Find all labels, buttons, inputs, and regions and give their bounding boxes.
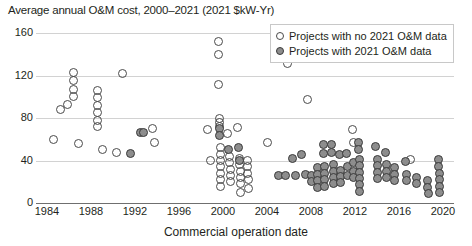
data-point-series-1 bbox=[297, 150, 306, 159]
data-point-series-1 bbox=[319, 149, 328, 158]
data-point-series-0 bbox=[214, 80, 223, 89]
data-point-series-1 bbox=[235, 156, 244, 165]
x-tick-label-1992: 1992 bbox=[113, 205, 157, 217]
y-tick-label-160: 160 bbox=[3, 27, 33, 38]
data-point-series-1 bbox=[234, 143, 243, 152]
data-point-series-0 bbox=[203, 125, 212, 134]
y-tick-label-40: 40 bbox=[3, 155, 33, 166]
data-point-series-0 bbox=[244, 175, 253, 184]
data-point-series-1 bbox=[319, 140, 328, 149]
data-point-series-0 bbox=[216, 182, 225, 191]
data-point-series-1 bbox=[320, 182, 329, 191]
x-tick-label-2004: 2004 bbox=[245, 205, 289, 217]
chart-legend: Projects with no 2021 O&M dataProjects w… bbox=[270, 24, 454, 63]
data-point-series-1 bbox=[402, 176, 411, 185]
data-point-series-0 bbox=[112, 148, 121, 157]
x-tick-label-2008: 2008 bbox=[289, 205, 333, 217]
gridline-y-120 bbox=[36, 76, 454, 77]
data-point-series-0 bbox=[63, 100, 72, 109]
x-tick-label-1988: 1988 bbox=[69, 205, 113, 217]
legend-marker-icon bbox=[276, 32, 284, 40]
data-point-series-0 bbox=[93, 122, 102, 131]
data-point-series-1 bbox=[354, 145, 363, 154]
data-point-series-0 bbox=[98, 145, 107, 154]
data-point-series-0 bbox=[214, 37, 223, 46]
x-tick-label-2016: 2016 bbox=[377, 205, 421, 217]
data-point-series-0 bbox=[150, 138, 159, 147]
x-tick-label-2012: 2012 bbox=[333, 205, 377, 217]
x-axis-label: Commercial operation date bbox=[0, 225, 472, 239]
data-point-series-1 bbox=[401, 157, 410, 166]
data-point-series-1 bbox=[215, 131, 224, 140]
scatter-chart: Average annual O&M cost, 2000–2021 (2021… bbox=[0, 0, 472, 246]
data-point-series-0 bbox=[49, 135, 58, 144]
x-axis: 1984198819921996200020042008201220162020 bbox=[0, 205, 472, 221]
data-point-series-1 bbox=[342, 149, 351, 158]
x-tick-label-1984: 1984 bbox=[25, 205, 69, 217]
legend-label: Projects with no 2021 O&M data bbox=[289, 30, 447, 42]
data-point-series-1 bbox=[288, 154, 297, 163]
data-point-series-0 bbox=[74, 139, 83, 148]
data-point-series-1 bbox=[371, 142, 380, 151]
data-point-series-1 bbox=[424, 189, 433, 198]
legend-item-0[interactable]: Projects with no 2021 O&M data bbox=[276, 28, 447, 43]
legend-item-1[interactable]: Projects with 2021 O&M data bbox=[276, 43, 447, 58]
data-point-series-0 bbox=[348, 125, 357, 134]
data-point-series-0 bbox=[233, 123, 242, 132]
data-point-series-0 bbox=[69, 76, 78, 85]
legend-marker-icon bbox=[276, 47, 284, 55]
x-tick-label-2000: 2000 bbox=[201, 205, 245, 217]
data-point-series-0 bbox=[214, 50, 223, 59]
data-point-series-1 bbox=[435, 188, 444, 197]
x-tick-label-2020: 2020 bbox=[421, 205, 465, 217]
data-point-series-0 bbox=[263, 138, 272, 147]
x-axis-line bbox=[36, 203, 454, 204]
data-point-series-1 bbox=[381, 148, 390, 157]
data-point-series-0 bbox=[118, 69, 127, 78]
data-point-series-1 bbox=[139, 128, 148, 137]
data-point-series-0 bbox=[223, 129, 232, 138]
data-point-series-0 bbox=[69, 92, 78, 101]
data-point-series-0 bbox=[148, 124, 157, 133]
chart-title: Average annual O&M cost, 2000–2021 (2021… bbox=[8, 4, 274, 17]
data-point-series-1 bbox=[291, 171, 300, 180]
legend-label: Projects with 2021 O&M data bbox=[289, 45, 431, 57]
data-point-series-1 bbox=[390, 176, 399, 185]
data-point-series-0 bbox=[303, 95, 312, 104]
data-point-series-1 bbox=[373, 174, 382, 183]
data-point-series-0 bbox=[244, 184, 253, 193]
data-point-series-0 bbox=[226, 177, 235, 186]
y-tick-label-80: 80 bbox=[3, 112, 33, 123]
data-point-series-1 bbox=[336, 178, 345, 187]
x-tick-label-1996: 1996 bbox=[157, 205, 201, 217]
data-point-series-1 bbox=[281, 171, 290, 180]
data-point-series-1 bbox=[126, 149, 135, 158]
data-point-series-0 bbox=[206, 156, 215, 165]
y-tick-label-120: 120 bbox=[3, 70, 33, 81]
data-point-series-1 bbox=[412, 179, 421, 188]
data-point-series-1 bbox=[355, 187, 364, 196]
